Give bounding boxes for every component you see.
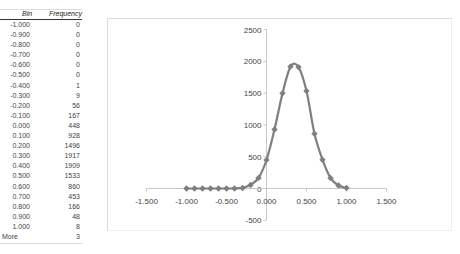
diamond-marker xyxy=(319,156,325,162)
y-tick-label: -500 xyxy=(245,216,262,225)
x-tick-label: -1.500 xyxy=(135,197,158,206)
x-tick-label: 0.000 xyxy=(256,197,277,206)
diamond-marker xyxy=(207,185,213,191)
y-tick-label: 1500 xyxy=(244,89,262,98)
y-tick-label: 500 xyxy=(248,153,262,162)
x-tick-label: -1.000 xyxy=(175,197,198,206)
diamond-marker xyxy=(303,88,309,94)
y-tick-label: 1000 xyxy=(244,121,262,130)
histogram-line-chart: -50005001000150020002500 -1.500-1.000-0.… xyxy=(0,0,460,254)
diamond-marker xyxy=(199,185,205,191)
diamond-marker xyxy=(311,131,317,137)
y-tick-label: 2000 xyxy=(244,57,262,66)
x-tick-label: -0.500 xyxy=(215,197,238,206)
diamond-marker xyxy=(223,185,229,191)
y-axis: -50005001000150020002500 xyxy=(244,26,267,226)
diamond-marker xyxy=(231,185,237,191)
diamond-marker xyxy=(183,185,189,191)
diamond-marker xyxy=(239,185,245,191)
diamond-marker xyxy=(343,185,349,191)
diamond-marker xyxy=(279,90,285,96)
diamond-marker xyxy=(215,185,221,191)
y-tick-label: 2500 xyxy=(244,26,262,35)
diamond-marker xyxy=(263,157,269,163)
diamond-marker xyxy=(191,185,197,191)
diamond-marker xyxy=(271,126,277,132)
x-tick-label: 1.500 xyxy=(376,197,397,206)
x-tick-label: 0.500 xyxy=(296,197,317,206)
x-axis: -1.500-1.000-0.5000.0000.5001.0001.500 xyxy=(135,189,397,206)
x-tick-label: 1.000 xyxy=(336,197,357,206)
